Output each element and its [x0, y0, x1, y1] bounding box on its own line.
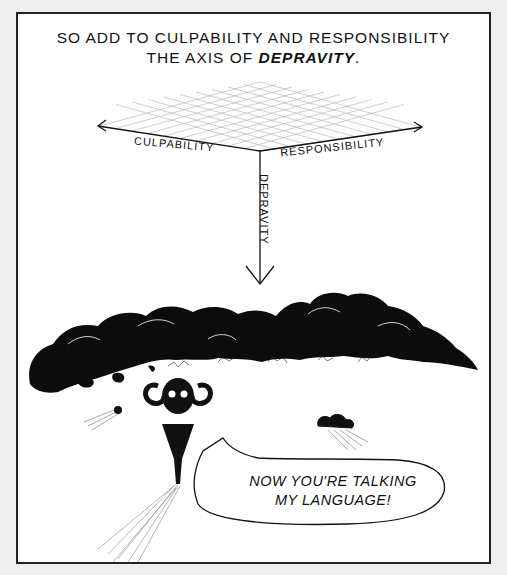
- glowing-eye-right: [181, 391, 188, 398]
- smoke-cloud: [29, 293, 478, 393]
- glowing-eye-left: [169, 391, 176, 398]
- left-horn: [146, 385, 164, 403]
- demon-figure: [98, 378, 210, 562]
- comic-panel: SO ADD TO CULPABILITY AND RESPONSIBILITY…: [16, 12, 491, 564]
- right-horn: [192, 385, 210, 403]
- speech-line-1: NOW YOU'RE TALKING: [213, 472, 453, 491]
- speech-bubble-text: NOW YOU'RE TALKING MY LANGUAGE!: [213, 472, 453, 510]
- small-comet: [84, 406, 122, 430]
- depravity-label: DEPRAVITY: [258, 174, 270, 245]
- skull-head: [162, 378, 194, 414]
- speech-line-2: MY LANGUAGE!: [213, 491, 453, 510]
- small-storm-cloud: [318, 414, 368, 450]
- demon-body: [162, 424, 194, 484]
